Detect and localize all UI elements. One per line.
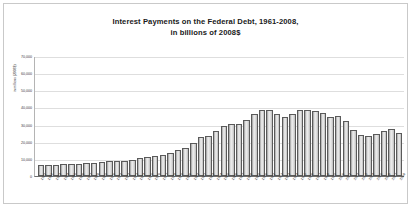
bar <box>365 136 371 176</box>
x-axis-tick: 1975 <box>143 178 151 208</box>
bar <box>205 136 211 176</box>
x-axis-tick: 1988 <box>242 178 250 208</box>
bar <box>259 110 265 176</box>
x-axis-tick: 1999 <box>326 178 334 208</box>
x-axis-tick: 1973 <box>128 178 136 208</box>
x-axis-tick: 1978 <box>166 178 174 208</box>
x-axis-tick: 1965 <box>67 178 75 208</box>
bar <box>297 110 303 176</box>
bar <box>190 143 196 176</box>
plot-area <box>34 57 404 177</box>
y-axis-ticks: 70,00060,00050,00040,00030,00020,00010,0… <box>4 57 32 177</box>
chart-title: Interest Payments on the Federal Debt, 1… <box>4 16 407 38</box>
bar <box>358 135 364 176</box>
x-axis-tick: 1998 <box>319 178 327 208</box>
bar <box>221 126 227 176</box>
bar <box>381 131 387 176</box>
x-axis-tick: 1981 <box>189 178 197 208</box>
y-axis-tick-label: 20,000 <box>21 141 32 145</box>
y-axis-tick-label: 30,000 <box>21 124 32 128</box>
y-axis-tick-label: 70,000 <box>21 55 32 59</box>
x-axis-tick: 1994 <box>288 178 296 208</box>
x-axis-tick: 1969 <box>97 178 105 208</box>
x-axis-tick: 1986 <box>227 178 235 208</box>
x-axis-tick: 1970 <box>105 178 113 208</box>
x-axis-tick: 1963 <box>51 178 59 208</box>
bar <box>343 121 349 176</box>
x-axis-tick: 1993 <box>281 178 289 208</box>
x-axis-tick: 2006 <box>380 178 388 208</box>
x-axis-tick: 2005 <box>372 178 380 208</box>
bar <box>350 130 356 176</box>
bar <box>388 129 394 176</box>
y-axis-tick-label: 60,000 <box>21 72 32 76</box>
y-axis-tick-label: 0 <box>30 175 32 179</box>
x-axis-tick: 1976 <box>151 178 159 208</box>
bar <box>396 133 402 176</box>
bar <box>312 111 318 176</box>
x-axis-tick: 2001 <box>342 178 350 208</box>
x-axis-tick: 2003 <box>357 178 365 208</box>
bar <box>289 114 295 176</box>
bar <box>335 116 341 176</box>
bar <box>282 117 288 176</box>
x-axis-tick: 1967 <box>82 178 90 208</box>
chart-title-line1: Interest Payments on the Federal Debt, 1… <box>113 17 299 26</box>
bar <box>236 124 242 176</box>
x-axis-tick: 1966 <box>74 178 82 208</box>
bar <box>228 124 234 176</box>
bar <box>327 117 333 176</box>
x-axis-tick: 2008 <box>395 178 403 208</box>
x-axis-tick: 1964 <box>59 178 67 208</box>
x-axis-tick: 1980 <box>181 178 189 208</box>
x-axis-tick: 1995 <box>296 178 304 208</box>
x-axis-tick: 1985 <box>219 178 227 208</box>
bar <box>266 110 272 177</box>
x-axis-tick: 1982 <box>196 178 204 208</box>
x-axis-tick: 1984 <box>212 178 220 208</box>
x-axis-tick: 1968 <box>89 178 97 208</box>
x-axis-tick: 1974 <box>135 178 143 208</box>
x-axis-tick: 1983 <box>204 178 212 208</box>
x-axis-tick: 1979 <box>174 178 182 208</box>
x-axis-tick: 1977 <box>158 178 166 208</box>
x-axis-tick: 1972 <box>120 178 128 208</box>
x-axis-tick: 1996 <box>303 178 311 208</box>
x-axis-tick: 1961 <box>36 178 44 208</box>
x-axis-tick: 2002 <box>349 178 357 208</box>
x-axis-tick: 1990 <box>258 178 266 208</box>
x-axis-tick: 1962 <box>44 178 52 208</box>
bar <box>251 114 257 176</box>
bar-series <box>36 57 404 176</box>
y-axis-tick-label: 50,000 <box>21 89 32 93</box>
bar <box>373 134 379 176</box>
y-axis-tick-label: 10,000 <box>21 158 32 162</box>
x-axis-tick: 2007 <box>387 178 395 208</box>
x-axis-tick: 2004 <box>365 178 373 208</box>
bar <box>198 137 204 176</box>
x-axis-tick: 1971 <box>112 178 120 208</box>
y-axis-tick-label: 40,000 <box>21 106 32 110</box>
x-axis-ticks: 1961196219631964196519661967196819691970… <box>35 178 404 208</box>
bar <box>243 120 249 176</box>
x-axis-tick: 2000 <box>334 178 342 208</box>
bar <box>320 113 326 176</box>
bar <box>274 114 280 176</box>
chart-frame: Interest Payments on the Federal Debt, 1… <box>3 3 408 204</box>
x-axis-tick: 1997 <box>311 178 319 208</box>
x-axis-tick: 1991 <box>265 178 273 208</box>
bar <box>213 131 219 176</box>
x-axis-tick: 1987 <box>235 178 243 208</box>
chart-title-line2: in billions of 2008$ <box>4 27 407 38</box>
x-axis-tick: 1989 <box>250 178 258 208</box>
bar <box>304 110 310 176</box>
x-axis-tick: 1992 <box>273 178 281 208</box>
plot-canvas <box>34 57 404 177</box>
